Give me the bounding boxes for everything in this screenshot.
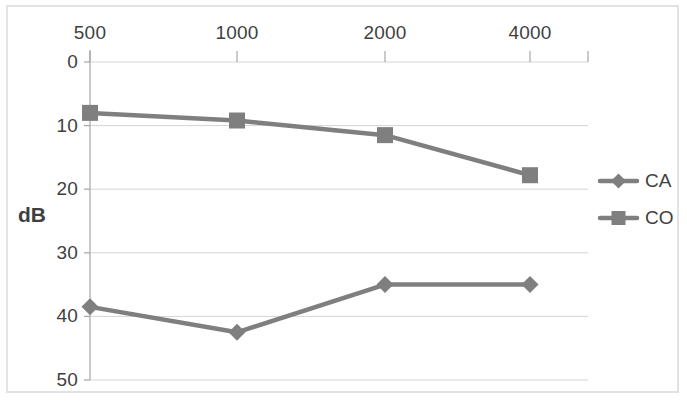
y-axis-label-40: 40 [34, 305, 78, 327]
data-point-CO-500 [82, 105, 98, 121]
y-axis-title: dB [18, 203, 46, 227]
legend-markers-group [600, 174, 637, 226]
x-axis-label-2000: 2000 [363, 22, 406, 44]
legend-marker-CA [611, 174, 626, 189]
series-line-CA [90, 285, 530, 333]
data-point-CA-1000 [229, 324, 246, 341]
axis-ticks-group [84, 51, 588, 380]
y-axis-label-0: 0 [34, 51, 78, 73]
legend-marker-CO [612, 211, 626, 225]
y-axis-label-20: 20 [34, 178, 78, 200]
y-axis-label-10: 10 [34, 115, 78, 137]
data-point-CO-4000 [522, 167, 538, 183]
x-axis-label-500: 500 [74, 22, 106, 44]
data-point-CA-500 [82, 298, 99, 315]
data-point-CA-4000 [522, 276, 539, 293]
chart-plot-area [0, 0, 687, 401]
data-point-CO-2000 [377, 127, 393, 143]
series-line-CO [90, 113, 530, 175]
data-point-CO-1000 [229, 113, 245, 129]
legend-label-CO: CO [645, 207, 674, 229]
data-series-group [82, 105, 539, 341]
x-axis-label-4000: 4000 [508, 22, 551, 44]
gridlines-group [90, 62, 588, 380]
data-point-CA-2000 [377, 276, 394, 293]
x-axis-label-1000: 1000 [215, 22, 258, 44]
y-axis-label-30: 30 [34, 242, 78, 264]
audiogram-chart: 500100020004000 01020304050 dB CACO [0, 0, 687, 401]
legend-label-CA: CA [645, 170, 671, 192]
y-axis-label-50: 50 [34, 369, 78, 391]
